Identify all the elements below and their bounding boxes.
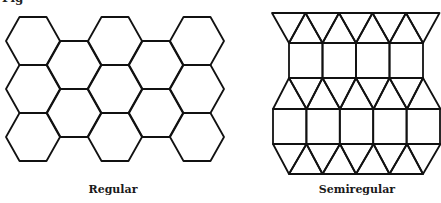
triangle-tile-down	[289, 78, 323, 109]
square-tile	[390, 43, 424, 78]
triangle-tile-down	[306, 13, 340, 43]
square-tile	[273, 109, 306, 144]
triangle-tile-down	[390, 78, 424, 109]
triangle-tile-down	[406, 13, 440, 43]
triangle-tile-up	[374, 78, 408, 109]
square-tile	[340, 109, 373, 144]
triangle-tile-up	[273, 78, 307, 109]
triangle-tile-down	[407, 144, 441, 174]
semiregular-triangle-square-tiling	[272, 13, 441, 174]
triangle-tile-down	[339, 13, 373, 43]
triangle-tile-up	[323, 13, 357, 43]
triangle-tile-down	[356, 78, 390, 109]
square-tile	[289, 43, 323, 78]
regular-hexagonal-tiling	[6, 17, 224, 161]
triangle-tile-up	[307, 78, 341, 109]
triangle-tile-down	[307, 144, 341, 174]
triangle-tile-down	[323, 78, 357, 109]
triangle-tile-down	[374, 144, 408, 174]
triangle-tile-up	[289, 144, 323, 174]
triangle-tile-down	[273, 144, 307, 174]
triangle-tile-up	[356, 13, 390, 43]
caption-regular: Regular	[89, 183, 138, 196]
triangle-tile-down	[272, 13, 306, 43]
square-tile	[373, 109, 406, 144]
triangle-tile-up	[323, 144, 357, 174]
triangle-tile-down	[373, 13, 407, 43]
triangle-tile-down	[340, 144, 374, 174]
square-tile	[323, 43, 357, 78]
triangle-tile-up	[407, 78, 441, 109]
square-tile	[356, 43, 390, 78]
triangle-tile-up	[356, 144, 390, 174]
triangle-tile-up	[289, 13, 323, 43]
square-tile	[407, 109, 440, 144]
caption-semiregular: Semiregular	[319, 183, 395, 196]
square-tile	[306, 109, 339, 144]
triangle-tile-up	[390, 144, 424, 174]
tessellation-diagram	[0, 0, 441, 203]
triangle-tile-up	[390, 13, 424, 43]
triangle-tile-up	[340, 78, 374, 109]
